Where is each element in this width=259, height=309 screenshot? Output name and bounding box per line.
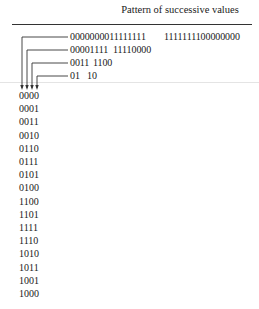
sequence-item: 1011	[19, 261, 39, 274]
bit1-pattern-first: 0011	[70, 57, 89, 68]
leader-line-lsb	[37, 76, 68, 88]
sequence-item: 1001	[19, 274, 39, 287]
sequence-item: 0101	[19, 168, 39, 181]
sequence-item: 0110	[19, 142, 39, 155]
sequence-item: 0000	[19, 89, 39, 102]
sequence-item: 1110	[19, 234, 39, 247]
sequence-item: 1010	[19, 247, 39, 260]
sequence-item: 0010	[19, 129, 39, 142]
msb-pattern-first: 0000000011111111	[70, 31, 146, 42]
leader-line-bit2	[27, 50, 68, 88]
leader-line-msb	[22, 37, 68, 88]
gray-code-sequence: 0000 0001 0011 0010 0110 0111 0101 0100 …	[19, 89, 39, 300]
bit2-pattern-first: 00001111	[70, 44, 108, 55]
sequence-item: 0111	[19, 155, 39, 168]
lsb-pattern-second: 10	[87, 70, 97, 81]
sequence-item: 1100	[19, 195, 39, 208]
msb-pattern-second: 1111111100000000	[164, 31, 240, 42]
sequence-item: 0001	[19, 102, 39, 115]
sequence-item: 0011	[19, 115, 39, 128]
bit1-pattern-second: 1100	[93, 57, 112, 68]
sequence-item: 1101	[19, 208, 39, 221]
bit2-pattern-second: 11110000	[113, 44, 151, 55]
sequence-item: 0100	[19, 181, 39, 194]
lsb-pattern-first: 01	[70, 70, 80, 81]
sequence-item: 1111	[19, 221, 39, 234]
sequence-item: 1000	[19, 287, 39, 300]
